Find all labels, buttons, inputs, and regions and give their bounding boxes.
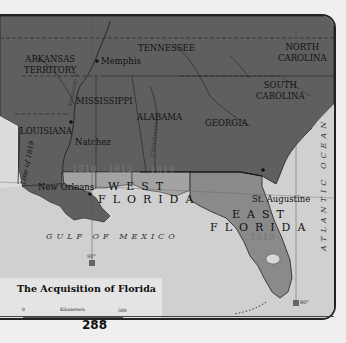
- label-east-florida-line1: EAST: [232, 209, 291, 220]
- label-louisiana: LOUISIANA: [20, 127, 72, 136]
- label-east-florida-line2: FLORIDA: [210, 222, 312, 233]
- scale-km-label: Kilometers: [60, 307, 85, 312]
- page-rule: [0, 316, 334, 317]
- city-st-augustine: St. Augustine: [252, 195, 310, 204]
- scale-km-max: 500: [118, 308, 127, 313]
- year-1813: 1813: [108, 165, 133, 174]
- longitude-90: 90°: [87, 254, 96, 259]
- longitude-80: 80°: [300, 300, 309, 305]
- city-new-orleans: New Orleans: [38, 183, 94, 192]
- label-atlantic-ocean: ATLANTIC OCEAN: [320, 118, 328, 251]
- label-west-florida-line1: WEST: [108, 181, 170, 192]
- label-georgia: GEORGIA: [205, 119, 248, 128]
- scale-km-min: 0: [22, 307, 25, 312]
- label-arkansas-territory: ARKANSAS TERRITORY: [24, 54, 76, 75]
- year-1810: 1810: [72, 165, 97, 174]
- city-natchez: Natchez: [75, 138, 111, 147]
- label-gulf-of-mexico: GULF OF MEXICO: [46, 233, 179, 241]
- label-south-carolina: SOUTH CAROLINA: [256, 80, 305, 101]
- year-1819-west: 1819: [150, 166, 175, 175]
- scale-bar: 0 Kilometers 500 0 Miles 300: [20, 308, 125, 320]
- label-mississippi: MISSISSIPPI: [76, 97, 133, 106]
- map-frame: ARKANSAS TERRITORY TENNESSEE NORTH CAROL…: [0, 14, 336, 320]
- page-number: 288: [82, 318, 107, 332]
- label-alabama: ALABAMA: [137, 113, 182, 122]
- label-west-florida-line2: FLORIDA: [98, 194, 200, 205]
- map-legend: The Acquisition of Florida 0 Kilometers …: [0, 278, 162, 320]
- label-tennessee: TENNESSEE: [138, 44, 195, 53]
- year-1819-east: 1819: [250, 233, 275, 242]
- label-north-carolina: NORTH CAROLINA: [278, 42, 327, 63]
- city-memphis: Memphis: [101, 57, 141, 66]
- map-title: The Acquisition of Florida: [17, 283, 156, 294]
- textbook-page: ARKANSAS TERRITORY TENNESSEE NORTH CAROL…: [0, 0, 346, 343]
